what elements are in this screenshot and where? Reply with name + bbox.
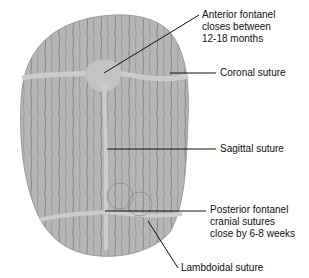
label-anterior-fontanel: Anterior fontanel closes between 12-18 m… <box>202 9 275 45</box>
sagittal-suture-line <box>104 85 106 212</box>
label-anterior-line1: Anterior fontanel <box>202 9 275 21</box>
label-coronal-suture: Coronal suture <box>220 67 286 79</box>
label-posterior-line1: Posterior fontanel <box>210 204 295 216</box>
label-posterior-line3: close by 6-8 weeks <box>210 228 295 240</box>
label-posterior-line2: cranial sutures <box>210 216 295 228</box>
label-lambdoidal-suture: Lambdoidal suture <box>181 262 263 274</box>
label-anterior-line2: closes between <box>202 21 275 33</box>
label-anterior-line3: 12-18 months <box>202 33 275 45</box>
label-posterior-fontanel: Posterior fontanel cranial sutures close… <box>210 204 295 240</box>
label-sagittal-suture: Sagittal suture <box>220 143 284 155</box>
